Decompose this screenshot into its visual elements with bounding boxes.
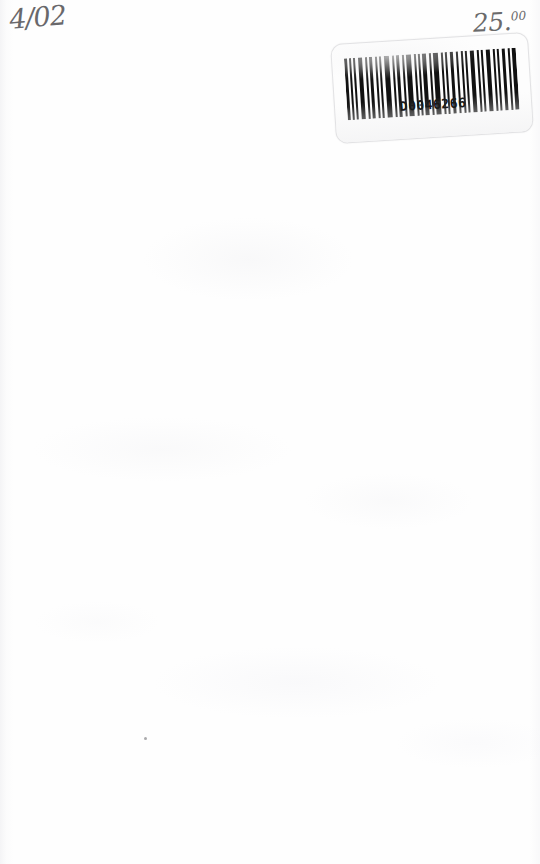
handwritten-date-annotation: 4/02 — [8, 0, 67, 35]
price-cents: 00 — [511, 9, 527, 24]
dust-speck — [144, 737, 147, 740]
scanned-page: 4/02 25.00 D0046266 — [0, 0, 540, 864]
barcode-label: D0046266 — [330, 32, 534, 144]
